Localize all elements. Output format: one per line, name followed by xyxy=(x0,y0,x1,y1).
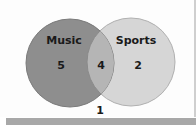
music-label: Music xyxy=(46,34,82,47)
outside-count: 1 xyxy=(96,104,104,117)
sports-only-count: 2 xyxy=(134,59,142,72)
music-only-count: 5 xyxy=(57,59,65,72)
sports-label: Sports xyxy=(116,34,157,47)
venn-diagram: Music Sports 5 4 2 1 xyxy=(0,0,196,125)
intersection-count: 4 xyxy=(97,59,105,72)
